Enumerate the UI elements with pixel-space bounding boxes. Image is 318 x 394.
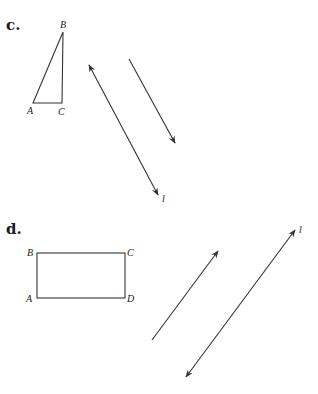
part-c: c. B A C l bbox=[6, 16, 175, 204]
triangle-abc bbox=[33, 32, 63, 103]
line-l bbox=[186, 230, 295, 377]
translation-vector bbox=[129, 59, 175, 143]
line-l bbox=[89, 65, 158, 195]
vertex-a-label: A bbox=[26, 105, 34, 116]
vertex-b-label: B bbox=[60, 19, 66, 30]
vertex-a-label: A bbox=[25, 293, 33, 304]
vertex-b-label: B bbox=[27, 247, 33, 258]
geometry-diagram: c. B A C l d. B C A D l bbox=[0, 0, 318, 394]
line-l-label: l bbox=[162, 193, 165, 204]
translation-vector bbox=[152, 251, 218, 340]
part-d: d. B C A D l bbox=[6, 220, 302, 377]
vertex-d-label: D bbox=[126, 293, 135, 304]
rectangle-abcd bbox=[37, 253, 125, 298]
part-d-label: d. bbox=[6, 220, 22, 238]
vertex-c-label: C bbox=[127, 247, 134, 258]
vertex-c-label: C bbox=[58, 106, 65, 117]
part-c-label: c. bbox=[6, 16, 20, 34]
line-l-label: l bbox=[299, 224, 302, 235]
